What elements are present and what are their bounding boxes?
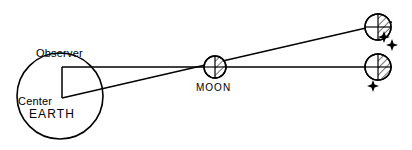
moon-label: MOON — [196, 83, 231, 93]
parallax-diagram: Observer Center EARTH MOON — [0, 0, 412, 150]
diagram-canvas — [0, 0, 412, 150]
earth-label: EARTH — [29, 108, 75, 120]
star-lower-icon — [367, 80, 379, 92]
moon-apparent-lower-body — [365, 54, 391, 80]
moon-center-body — [204, 56, 226, 78]
star-upper-b-icon — [386, 39, 398, 51]
observer-label: Observer — [36, 48, 83, 59]
center-label: Center — [18, 96, 52, 107]
